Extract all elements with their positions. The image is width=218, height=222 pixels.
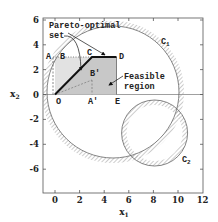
y-axis-label: x2: [10, 89, 20, 100]
x-axis-label: x1: [119, 207, 129, 218]
point-label-a: A: [46, 52, 52, 62]
x-tick-label: 0: [52, 195, 58, 205]
pareto-diagram: 6 4 2 0 -2 -4 -6 0 2 4 6 8 10 12 x1 x2 A…: [0, 0, 218, 222]
point-label-d: D: [119, 52, 124, 62]
circle-c2-hatch: [124, 103, 185, 164]
curve-label-c1: C1: [161, 37, 170, 48]
feasible-region-label-line1: Feasible: [124, 72, 165, 82]
x-tick-label: 8: [150, 195, 156, 205]
x-tick-label: 10: [172, 195, 184, 205]
point-label-o: O: [56, 97, 61, 107]
x-tick-label: 4: [101, 195, 107, 205]
y-tick-label: -6: [30, 164, 40, 174]
y-tick-label: 6: [33, 15, 39, 25]
pareto-set-label-line2: set: [49, 31, 64, 41]
x-tick-label: 12: [197, 195, 209, 205]
point-label-b: B: [60, 52, 65, 62]
point-label-e: E: [115, 97, 120, 107]
x-tick-label: 2: [77, 195, 83, 205]
y-tick-label: 4: [33, 40, 39, 50]
y-tick-label: -4: [30, 139, 40, 149]
circle-c2: [122, 100, 188, 166]
y-tick-label: -2: [30, 114, 40, 124]
curve-label-c2: C2: [182, 155, 191, 166]
y-tick-label: 2: [33, 65, 39, 75]
point-label-b-prime: B′: [90, 69, 100, 79]
point-label-c: C: [87, 48, 92, 58]
y-tick-label: 0: [33, 90, 39, 100]
pareto-set-label-line1: Pareto-optimal: [49, 21, 120, 31]
feasible-region-label-line2: region: [124, 82, 155, 92]
point-label-a-prime: A′: [88, 97, 98, 107]
x-tick-label: 6: [126, 195, 132, 205]
